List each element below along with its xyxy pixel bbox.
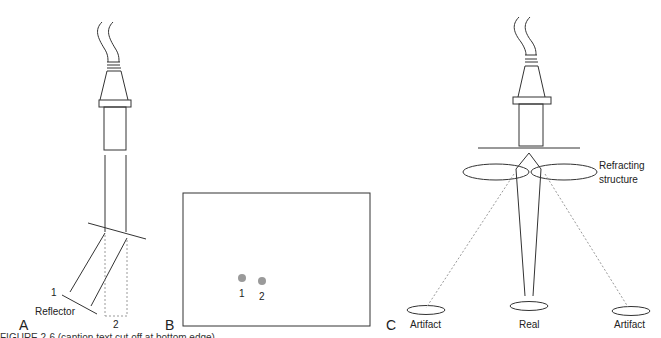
interface-line — [88, 223, 146, 239]
transducer-housing-icon — [100, 71, 128, 100]
figure-caption-truncated: FIGURE 2-6 (caption text cut off at bott… — [0, 331, 661, 338]
transducer-cable-icon — [514, 17, 526, 55]
reflector-label: Reflector — [35, 306, 76, 317]
real-target — [510, 302, 548, 311]
echo-dot-1 — [238, 274, 246, 282]
panel-b — [183, 193, 370, 326]
transducer-cable-icon — [98, 22, 108, 62]
display-screen — [183, 193, 370, 326]
artifact-right-label: Artifact — [614, 319, 645, 330]
transducer-housing-icon — [518, 66, 545, 97]
real-label: Real — [519, 319, 540, 330]
artifact-target-right — [612, 307, 650, 316]
dot-2-label: 2 — [259, 291, 265, 302]
panel-a — [62, 22, 146, 316]
refracting-structure-label-line2: structure — [599, 174, 638, 185]
artifact-left-label: Artifact — [410, 319, 441, 330]
artifact-target-left — [407, 306, 445, 315]
refracting-structure-label-line1: Refracting — [599, 160, 645, 171]
figure-canvas: 1 Reflector 2 A 1 2 B — [0, 0, 661, 338]
path-2-label: 2 — [113, 319, 119, 330]
echo-dot-2 — [258, 277, 266, 285]
path-1-label: 1 — [51, 287, 57, 298]
dot-1-label: 1 — [239, 288, 245, 299]
refracting-lens-left — [463, 164, 529, 180]
